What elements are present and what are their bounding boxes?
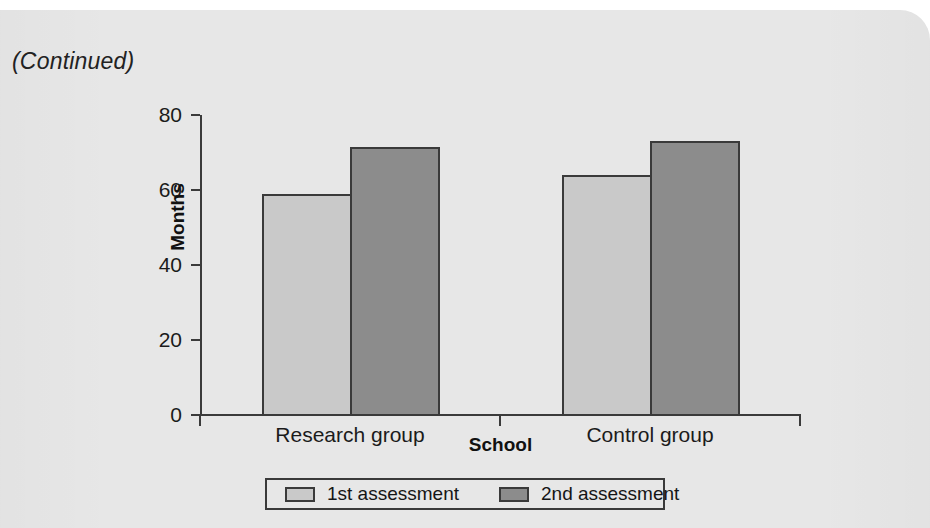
legend-swatch-icon-1st (285, 487, 315, 502)
y-axis-tick (191, 264, 200, 266)
y-axis-line (200, 115, 202, 416)
y-axis-tick-label: 80 (136, 104, 182, 125)
x-axis-category-label: Research group (240, 423, 460, 447)
y-axis-tick (191, 339, 200, 341)
x-axis-tick (199, 416, 201, 426)
x-axis-tick (799, 416, 801, 426)
y-axis-tick (191, 114, 200, 116)
y-axis-tick-label: 0 (136, 404, 182, 425)
legend-item-2nd-assessment: 2nd assessment (499, 483, 679, 505)
x-axis-category-label: Control group (540, 423, 760, 447)
legend-item-1st-assessment: 1st assessment (285, 483, 459, 505)
bar (262, 194, 352, 416)
legend-label-2nd: 2nd assessment (541, 483, 679, 505)
bar-chart: 020406080 Months School Research groupCo… (0, 10, 930, 528)
bar (562, 175, 652, 416)
y-axis-title: Months (167, 157, 189, 277)
scanned-page: (Continued) 020406080 Months School Rese… (0, 10, 930, 528)
bar (650, 141, 740, 416)
legend-swatch-icon-2nd (499, 487, 529, 502)
bar (350, 147, 440, 416)
legend-label-1st: 1st assessment (327, 483, 459, 505)
chart-legend: 1st assessment 2nd assessment (265, 478, 665, 510)
y-axis-tick (191, 189, 200, 191)
x-axis-tick (499, 416, 501, 426)
y-axis-tick-label: 20 (136, 329, 182, 350)
